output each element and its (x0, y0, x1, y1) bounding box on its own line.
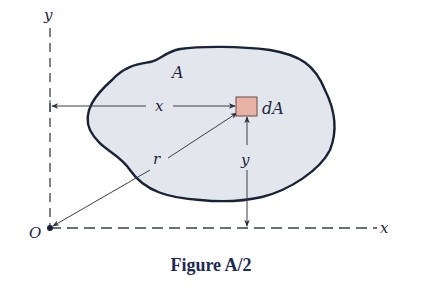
y-distance-label: y (240, 151, 250, 169)
y-axis-label: y (43, 6, 53, 24)
x-distance-label: x (155, 97, 164, 115)
area-label: A (170, 63, 184, 82)
element-label: dA (262, 99, 284, 118)
r-arrow-to-origin (53, 170, 150, 226)
figure-caption: Figure A/2 (170, 255, 251, 275)
area-region-a (88, 47, 335, 201)
x-axis-label: x (380, 219, 389, 237)
origin-point (47, 225, 53, 231)
element-da (236, 97, 257, 116)
origin-label: O (29, 224, 41, 242)
radius-label: r (153, 150, 161, 168)
figure-a2-diagram: y x O A dA x y r Figure A/2 (0, 0, 422, 294)
